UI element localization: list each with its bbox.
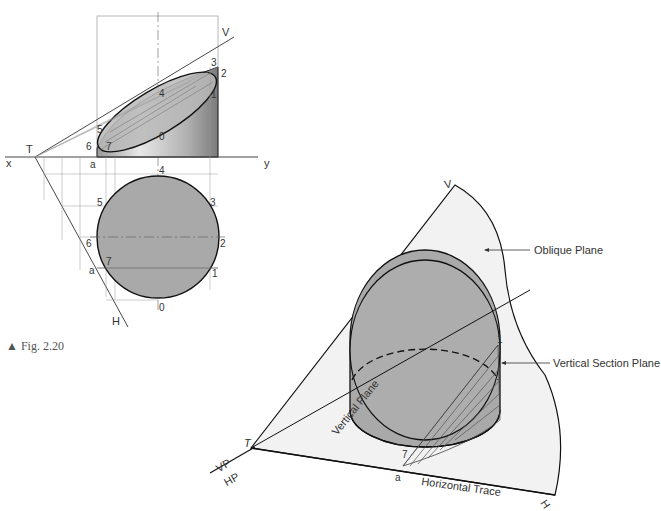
tv-point-0: 0 bbox=[159, 302, 165, 313]
projection-diagram: x y V H T 3 bbox=[0, 0, 661, 511]
x-label: x bbox=[6, 157, 12, 169]
fv-point-7: 7 bbox=[106, 141, 112, 152]
point-7-label: 7 bbox=[402, 449, 408, 460]
h-end-label: H bbox=[538, 497, 552, 510]
tv-point-3: 3 bbox=[210, 197, 216, 208]
tv-point-7: 7 bbox=[106, 256, 112, 267]
fv-point-a: a bbox=[90, 159, 96, 170]
vp-label: VP bbox=[214, 456, 233, 474]
tv-point-1: 1 bbox=[212, 268, 218, 279]
fv-point-0: 0 bbox=[159, 131, 165, 142]
figure-caption: ▲ Fig. 2.20 bbox=[6, 339, 64, 353]
pictorial-view: V T VP HP Vertical Plane Horizontal Trac… bbox=[210, 177, 660, 510]
fv-point-2: 2 bbox=[221, 68, 227, 79]
ht-label: H bbox=[112, 315, 120, 327]
vertical-section-plane-label: Vertical Section Plane bbox=[553, 357, 660, 369]
tv-point-a: a bbox=[89, 265, 95, 276]
fv-point-1: 1 bbox=[211, 89, 217, 100]
tv-point-2: 2 bbox=[220, 238, 226, 249]
tv-point-6: 6 bbox=[86, 238, 92, 249]
t-label: T bbox=[26, 143, 33, 155]
oblique-plane-label: Oblique Plane bbox=[534, 244, 603, 256]
fv-point-6: 6 bbox=[86, 141, 92, 152]
apex-v-label: V bbox=[443, 177, 453, 190]
point-1-label: 1 bbox=[497, 334, 503, 345]
hp-label: HP bbox=[222, 470, 241, 488]
fv-point-4: 4 bbox=[159, 88, 165, 99]
t-label-pictorial: T bbox=[244, 437, 252, 449]
fv-point-5: 5 bbox=[97, 124, 103, 135]
vt-label: V bbox=[222, 26, 230, 38]
fv-point-3: 3 bbox=[211, 57, 217, 68]
orthographic-views: x y V H T 3 bbox=[5, 12, 270, 327]
tv-point-5: 5 bbox=[97, 197, 103, 208]
point-a-label: a bbox=[395, 472, 401, 483]
tv-point-4: 4 bbox=[159, 165, 165, 176]
y-label: y bbox=[264, 157, 270, 169]
